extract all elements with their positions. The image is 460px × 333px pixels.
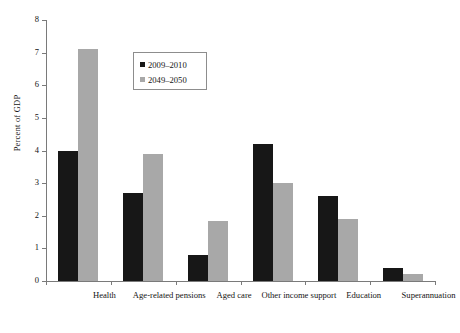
legend-label: 2049–2050 bbox=[148, 75, 187, 85]
chart-legend: 2009–2010 2049–2050 bbox=[133, 52, 207, 90]
bar bbox=[318, 196, 338, 281]
x-axis-tick-mark bbox=[111, 281, 112, 285]
bar-group bbox=[52, 20, 104, 281]
y-axis-line bbox=[46, 20, 47, 281]
bar bbox=[403, 274, 423, 281]
y-axis-tick-label: 1 bbox=[35, 242, 39, 252]
bar bbox=[338, 219, 358, 281]
y-axis-tick-mark bbox=[42, 53, 46, 54]
y-axis-tick-label: 2 bbox=[35, 210, 39, 220]
y-axis-tick-mark bbox=[42, 118, 46, 119]
x-axis-tick-mark bbox=[435, 281, 436, 285]
y-axis-tick-label: 8 bbox=[35, 14, 39, 24]
bar-group bbox=[377, 20, 429, 281]
y-axis-tick-mark bbox=[42, 85, 46, 86]
bar bbox=[208, 221, 228, 281]
bar bbox=[253, 144, 273, 281]
y-axis-tick-mark bbox=[42, 248, 46, 249]
legend-label: 2009–2010 bbox=[148, 60, 187, 70]
x-axis-tick-mark bbox=[46, 281, 47, 285]
bar bbox=[143, 154, 163, 281]
y-axis-tick-mark bbox=[42, 20, 46, 21]
bar bbox=[383, 268, 403, 281]
x-axis-tick-mark bbox=[241, 281, 242, 285]
y-axis-tick-mark bbox=[42, 183, 46, 184]
y-axis-tick-label: 5 bbox=[35, 112, 39, 122]
bar-group bbox=[247, 20, 299, 281]
bar bbox=[188, 255, 208, 281]
bar bbox=[58, 151, 78, 282]
x-axis-tick-mark bbox=[176, 281, 177, 285]
legend-swatch-icon bbox=[140, 62, 145, 67]
y-axis-tick-label: 7 bbox=[35, 47, 39, 57]
y-axis-tick-label: 6 bbox=[35, 79, 39, 89]
x-axis-tick-mark bbox=[370, 281, 371, 285]
y-axis-tick-label: 4 bbox=[35, 145, 39, 155]
legend-item: 2009–2010 bbox=[140, 57, 206, 72]
bar bbox=[78, 49, 98, 281]
plot-area: 012345678 HealthAge-related pensionsAged… bbox=[46, 20, 435, 281]
y-axis-title: Percent of GDP bbox=[12, 68, 22, 178]
bar bbox=[273, 183, 293, 281]
y-axis-tick-mark bbox=[42, 151, 46, 152]
bar-group bbox=[312, 20, 364, 281]
y-axis-tick-label: 0 bbox=[35, 275, 39, 285]
y-axis-tick-label: 3 bbox=[35, 177, 39, 187]
x-axis-tick-label: Superannuation bbox=[377, 290, 460, 301]
y-axis-tick-mark bbox=[42, 216, 46, 217]
x-axis-tick-mark bbox=[305, 281, 306, 285]
bar bbox=[123, 193, 143, 281]
legend-swatch-icon bbox=[140, 77, 145, 82]
legend-item: 2049–2050 bbox=[140, 72, 206, 87]
